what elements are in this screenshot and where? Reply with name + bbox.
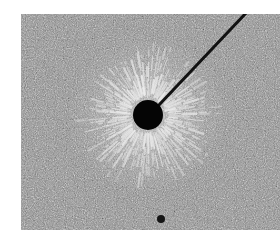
field-streak xyxy=(184,113,196,114)
field-streak xyxy=(144,148,145,154)
field-streak xyxy=(108,87,110,89)
field-streak xyxy=(200,105,203,106)
field-streak xyxy=(109,101,112,102)
field-streak xyxy=(201,98,204,99)
field-streak xyxy=(103,110,113,111)
field-streak xyxy=(153,153,154,160)
field-streak xyxy=(175,176,176,178)
field-streak xyxy=(113,117,129,118)
field-streak xyxy=(97,121,104,122)
field-lines-illustration xyxy=(21,14,280,230)
field-lines-photo xyxy=(21,14,280,230)
field-streak xyxy=(154,172,155,177)
field-streak xyxy=(162,76,163,79)
field-streak xyxy=(185,122,191,123)
field-streak xyxy=(90,108,98,109)
field-streak xyxy=(143,157,144,173)
image-alt-text: Electric field lines around a charged sp… xyxy=(0,0,1,1)
field-streak xyxy=(125,62,126,63)
charged-sphere xyxy=(133,100,163,130)
field-streak xyxy=(206,154,207,155)
small-dot xyxy=(157,215,165,223)
field-streak xyxy=(170,116,189,117)
field-streak xyxy=(91,122,95,123)
field-streak xyxy=(153,44,154,51)
field-streak xyxy=(97,105,105,107)
field-streak xyxy=(169,113,181,114)
field-streak xyxy=(169,117,178,118)
field-streak xyxy=(99,123,102,124)
field-streak xyxy=(106,146,108,147)
field-streak xyxy=(76,120,84,121)
field-streak xyxy=(170,48,171,51)
field-streak xyxy=(169,76,170,77)
field-streak xyxy=(170,110,176,111)
